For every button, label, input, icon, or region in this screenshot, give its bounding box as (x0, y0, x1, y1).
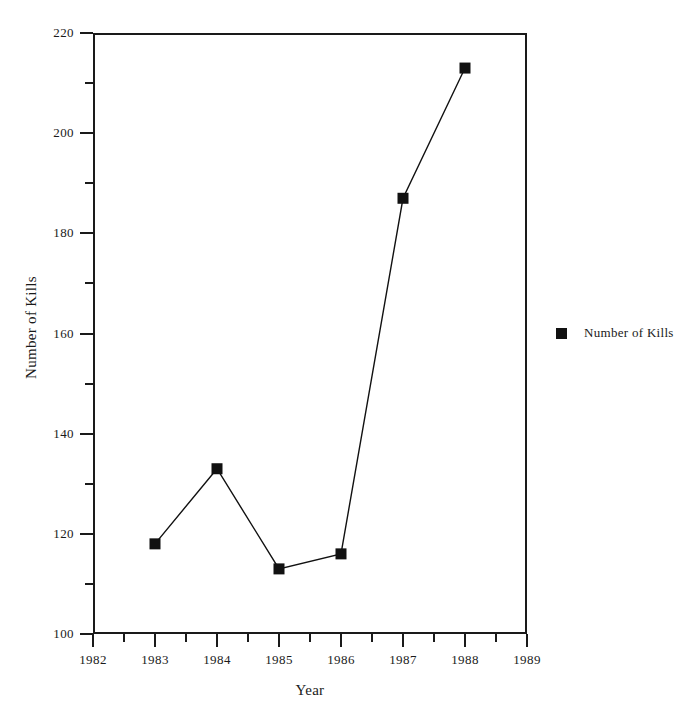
y-major-tick (80, 32, 93, 34)
x-tick-label: 1986 (311, 653, 371, 667)
x-major-tick (216, 634, 218, 647)
y-major-tick (80, 433, 93, 435)
x-major-tick (278, 634, 280, 647)
x-major-tick (154, 634, 156, 647)
y-axis-title-text: Number of Kills (23, 248, 40, 408)
chart-figure: 100120140160180200220 Number of Kills 19… (0, 0, 692, 724)
y-axis-title: Number of Kills (18, 248, 44, 408)
y-tick-label: 120 (53, 527, 74, 540)
x-minor-tick (185, 634, 187, 642)
x-minor-tick (371, 634, 373, 642)
y-tick-label: 160 (53, 327, 74, 340)
x-tick-label: 1983 (125, 653, 185, 667)
x-major-tick (526, 634, 528, 647)
y-major-tick (80, 132, 93, 134)
plot-area (93, 33, 527, 634)
y-minor-tick (85, 483, 93, 485)
y-minor-tick (85, 383, 93, 385)
x-major-tick (464, 634, 466, 647)
y-tick-label: 200 (53, 126, 74, 139)
y-minor-tick (85, 282, 93, 284)
x-minor-tick (309, 634, 311, 642)
x-major-tick (340, 634, 342, 647)
y-minor-tick (85, 182, 93, 184)
legend: Number of Kills (556, 325, 674, 341)
x-minor-tick (247, 634, 249, 642)
x-tick-label: 1988 (435, 653, 495, 667)
y-tick-label: 140 (53, 427, 74, 440)
x-major-tick (402, 634, 404, 647)
y-minor-tick (85, 82, 93, 84)
y-major-tick (80, 533, 93, 535)
x-tick-label: 1982 (63, 653, 123, 667)
x-tick-label: 1984 (187, 653, 247, 667)
legend-marker-number-of-kills (556, 328, 567, 339)
x-tick-label: 1989 (497, 653, 557, 667)
legend-label-number-of-kills: Number of Kills (584, 325, 674, 341)
y-tick-label: 220 (53, 26, 74, 39)
x-minor-tick (433, 634, 435, 642)
y-tick-label: 100 (53, 627, 74, 640)
x-tick-label: 1985 (249, 653, 309, 667)
y-tick-label: 180 (53, 226, 74, 239)
x-major-tick (92, 634, 94, 647)
y-minor-tick (85, 583, 93, 585)
y-major-tick (80, 333, 93, 335)
x-axis-title: Year (93, 682, 527, 699)
y-major-tick (80, 232, 93, 234)
x-minor-tick (123, 634, 125, 642)
x-tick-label: 1987 (373, 653, 433, 667)
x-minor-tick (495, 634, 497, 642)
